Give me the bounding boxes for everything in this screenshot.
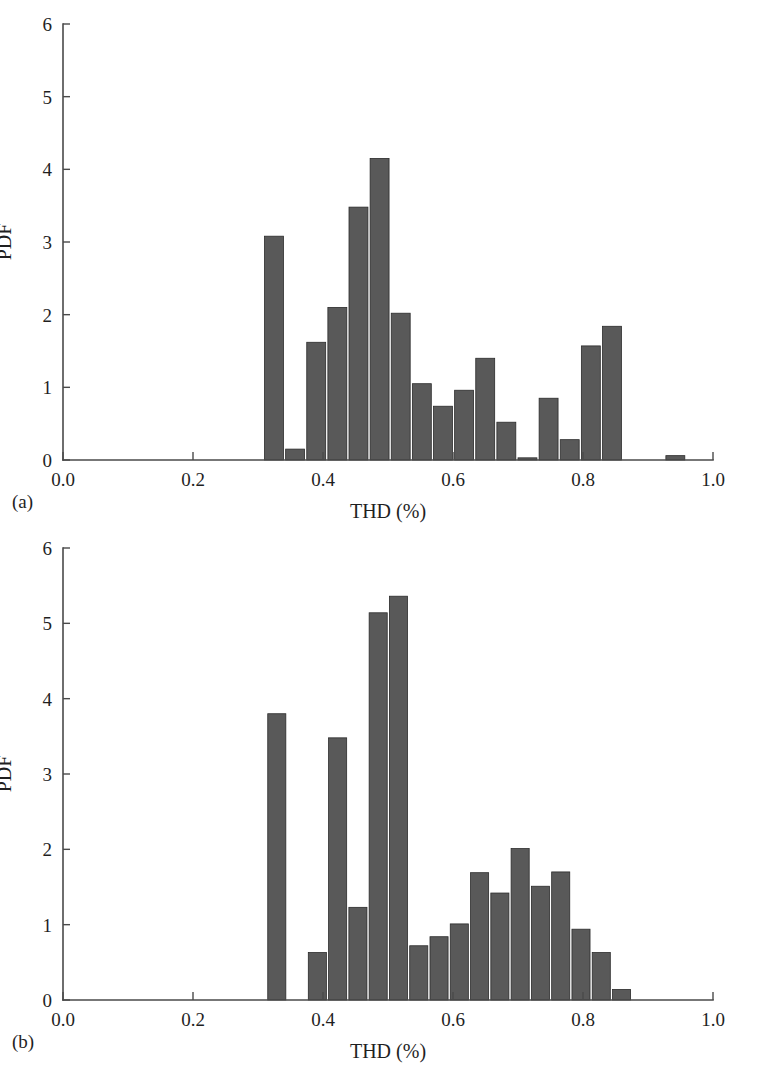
y-tick-label: 6 (43, 14, 53, 35)
histogram-bar (328, 307, 347, 460)
y-tick-label: 2 (43, 839, 53, 860)
y-axis-title: PDF (0, 224, 15, 261)
histogram-bar (369, 613, 387, 1000)
histogram-bar (370, 158, 389, 460)
histogram-bar (450, 924, 468, 1000)
histogram-bar (471, 873, 489, 1000)
figure-panel-b: 01234560.00.20.40.60.81.0THD (%)PDF(b) (0, 530, 771, 1065)
histogram-bar (560, 440, 579, 460)
y-tick-label: 0 (43, 990, 53, 1011)
histogram-bar (613, 989, 631, 1000)
histogram-bar (430, 937, 448, 1000)
histogram-bar (572, 929, 590, 1000)
x-tick-label: 0.0 (51, 1009, 75, 1030)
x-tick-label: 0.2 (181, 469, 205, 490)
y-tick-label: 2 (43, 305, 53, 326)
y-tick-label: 0 (43, 450, 53, 471)
y-tick-label: 5 (43, 613, 53, 634)
histogram-bar (412, 384, 431, 460)
chart-a-histogram: 01234560.00.20.40.60.81.0THD (%)PDF(a) (0, 0, 771, 530)
histogram-bar (592, 953, 610, 1000)
histogram-bar (268, 714, 286, 1000)
histogram-bar (434, 406, 453, 460)
histogram-bar (552, 872, 570, 1000)
x-tick-label: 0.8 (571, 1009, 595, 1030)
y-tick-label: 4 (43, 159, 53, 180)
histogram-bar (539, 398, 558, 460)
histogram-bar (581, 346, 600, 460)
bars-group (268, 596, 631, 1000)
y-tick-label: 1 (43, 377, 53, 398)
x-axis-title: THD (%) (350, 1040, 426, 1063)
panel-label: (b) (12, 1031, 34, 1053)
histogram-bar (349, 207, 368, 460)
y-tick-label: 5 (43, 87, 53, 108)
histogram-bar (286, 449, 305, 460)
histogram-bar (349, 907, 367, 1000)
x-axis-title: THD (%) (350, 500, 426, 523)
x-tick-label: 0.6 (441, 1009, 465, 1030)
y-tick-label: 3 (43, 232, 53, 253)
y-tick-label: 1 (43, 915, 53, 936)
histogram-bar (531, 886, 549, 1000)
histogram-bar (455, 390, 474, 460)
histogram-bar (391, 313, 410, 460)
histogram-bar (265, 236, 284, 460)
chart-b-histogram: 01234560.00.20.40.60.81.0THD (%)PDF(b) (0, 530, 771, 1065)
figure-panel-a: 01234560.00.20.40.60.81.0THD (%)PDF(a) (0, 0, 771, 530)
x-tick-label: 0.2 (181, 1009, 205, 1030)
bars-group (265, 158, 685, 460)
y-tick-label: 4 (43, 689, 53, 710)
x-tick-label: 0.4 (311, 1009, 335, 1030)
x-tick-label: 1.0 (701, 1009, 725, 1030)
histogram-bar (329, 738, 347, 1000)
histogram-bar (511, 849, 529, 1000)
panel-label: (a) (12, 491, 33, 513)
x-tick-label: 0.6 (441, 469, 465, 490)
histogram-bar (410, 946, 428, 1000)
histogram-bar (603, 326, 622, 460)
histogram-bar (497, 422, 516, 460)
histogram-bar (389, 596, 407, 1000)
y-tick-label: 6 (43, 538, 53, 559)
histogram-bar (476, 358, 495, 460)
histogram-bar (491, 893, 509, 1000)
y-tick-label: 3 (43, 764, 53, 785)
histogram-bar (307, 342, 326, 460)
x-tick-label: 0.8 (571, 469, 595, 490)
x-tick-label: 0.4 (311, 469, 335, 490)
y-axis-title: PDF (0, 756, 15, 793)
x-tick-label: 1.0 (701, 469, 725, 490)
x-tick-label: 0.0 (51, 469, 75, 490)
